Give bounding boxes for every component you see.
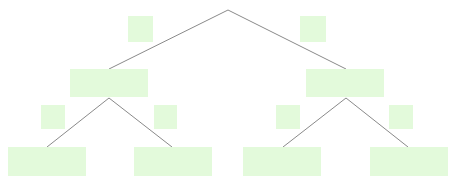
edge-label-el-root-right: [300, 16, 326, 42]
edge-label-el-right-right: [389, 105, 413, 129]
tree-node-n-right-left: [243, 147, 321, 176]
tree-edge: [228, 10, 346, 69]
edge-label-el-right-left: [276, 105, 300, 129]
tree-node-n-right: [306, 69, 384, 97]
tree-node-n-right-right: [370, 147, 448, 176]
tree-edge: [109, 10, 228, 69]
edge-label-el-left-left: [41, 105, 65, 129]
tree-node-n-left-right: [134, 147, 212, 176]
tree-node-n-left: [70, 69, 148, 97]
tree-diagram: [0, 0, 455, 184]
edge-label-el-left-right: [154, 105, 177, 129]
edge-label-el-root-left: [128, 16, 153, 42]
tree-node-n-left-left: [8, 147, 86, 176]
